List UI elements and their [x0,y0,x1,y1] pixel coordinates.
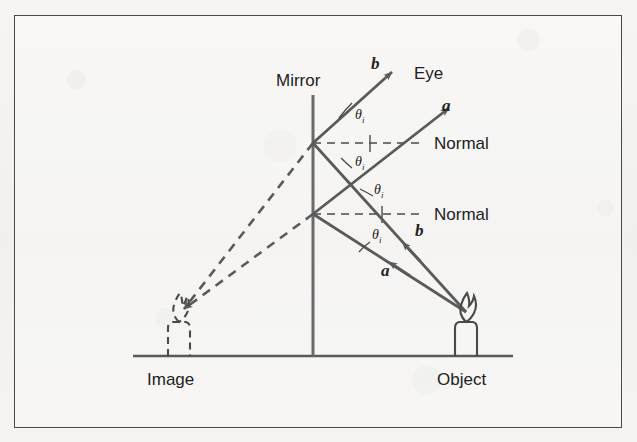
angle-leader-3 [360,189,373,196]
angle-label-theta-1: θi [355,108,364,125]
theta-subscript-4: i [379,235,382,245]
virtual-ray-lower [184,214,313,309]
ray-label-b-upper: b [371,55,380,72]
ray-a-incident-arrow [392,264,410,276]
theta-subscript-2: i [362,162,365,172]
virtual-ray-upper [184,143,313,309]
image-label: Image [147,371,194,388]
eye-label: Eye [414,65,443,82]
angle-leader-2 [341,158,352,168]
theta-glyph-1: θ [355,107,362,122]
ray-b-reflected [313,72,392,143]
ray-diagram-svg [0,0,637,442]
angle-label-theta-4: θi [372,228,381,245]
angle-label-theta-3: θi [374,183,383,200]
ray-label-b-lower: b [415,222,424,239]
normal-lower-label: Normal [434,206,489,223]
object-label: Object [437,371,486,388]
theta-glyph-4: θ [372,227,379,242]
mirror-label: Mirror [276,72,320,89]
normal-upper-label: Normal [434,135,489,152]
ray-label-a-upper: a [442,97,451,114]
ray-b-incident-arrow [405,245,420,261]
theta-subscript-3: i [381,190,384,200]
ray-label-a-lower: a [381,262,390,279]
angle-label-theta-2: θi [355,155,364,172]
theta-subscript-1: i [362,115,365,125]
image-candle [168,293,190,356]
theta-glyph-2: θ [355,154,362,169]
theta-glyph-3: θ [374,182,381,197]
figure-page: Mirror Eye Normal Normal Image Object b … [0,0,637,442]
